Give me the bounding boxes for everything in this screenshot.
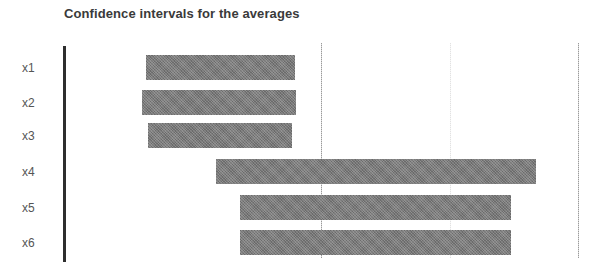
category-label-x2: x2 xyxy=(22,96,50,110)
category-label-x3: x3 xyxy=(22,129,50,143)
interval-bar-x1 xyxy=(146,55,295,80)
interval-bar-x6 xyxy=(240,230,511,255)
category-label-x1: x1 xyxy=(22,61,50,75)
plot-area: x1x2x3x4x5x6 xyxy=(0,0,599,276)
category-label-x4: x4 xyxy=(22,165,50,179)
category-label-x6: x6 xyxy=(22,236,50,250)
interval-bar-x2 xyxy=(142,90,296,115)
gridline-4 xyxy=(578,43,579,258)
y-axis-line xyxy=(63,46,66,262)
gridline-2 xyxy=(321,43,322,258)
category-label-x5: x5 xyxy=(22,201,50,215)
interval-bar-x4 xyxy=(216,159,536,184)
gridline-3 xyxy=(450,43,451,258)
interval-bar-x5 xyxy=(240,195,511,220)
interval-bar-x3 xyxy=(148,123,292,148)
